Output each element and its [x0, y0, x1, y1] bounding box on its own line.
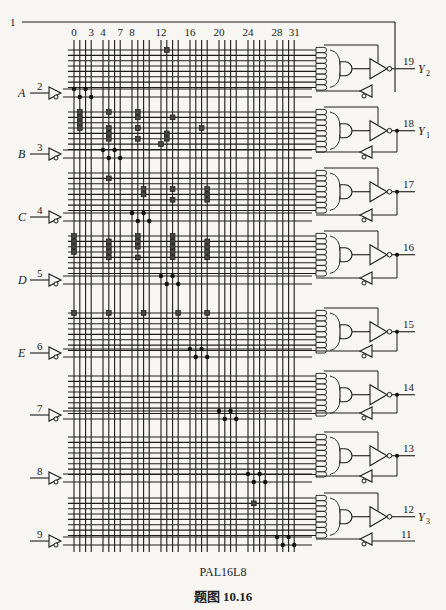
input-buffers: 2A3B4C5D6E7891 — [10, 16, 395, 547]
output-pin-number: 16 — [403, 241, 415, 253]
connection-dot — [118, 156, 122, 160]
and-gate-icon — [316, 373, 327, 378]
output-macrocells: 19Y218Y1171615141312Y311 — [316, 45, 430, 546]
fuse-mark — [205, 192, 210, 197]
and-gate-icon — [316, 249, 327, 254]
input-name: B — [18, 147, 26, 161]
fuse-mark — [170, 115, 175, 120]
fuse-mark — [106, 110, 111, 115]
and-gate-icon — [316, 181, 327, 186]
output-name: Y — [418, 510, 426, 524]
and-gate-icon — [316, 343, 327, 348]
column-label: 8 — [129, 26, 135, 38]
and-gate-icon — [316, 517, 327, 522]
fuse-mark — [135, 244, 140, 249]
fuse-mark — [176, 311, 181, 316]
column-label: 24 — [243, 26, 255, 38]
fuse-mark — [251, 501, 256, 506]
fuse-mark — [135, 110, 140, 115]
connection-dot — [292, 543, 296, 547]
and-gate-icon — [316, 233, 327, 238]
fuse-mark — [77, 115, 82, 120]
and-gate-icon — [316, 310, 327, 315]
output-macrocell-14: 14 — [316, 371, 415, 420]
input-pin-number: 7 — [37, 402, 43, 414]
and-gate-icon — [316, 533, 327, 538]
fuse-mark — [205, 197, 210, 202]
column-label: 12 — [156, 26, 167, 38]
fuse-mark — [159, 142, 164, 147]
device-name: PAL16L8 — [0, 565, 446, 580]
and-gate-icon — [316, 321, 327, 326]
connection-dot — [188, 347, 192, 351]
fuse-mark — [135, 126, 140, 131]
and-gate-icon — [316, 47, 327, 52]
fuse-mark — [199, 126, 204, 131]
output-pin-number: 19 — [403, 55, 415, 67]
fuse-mark — [164, 131, 169, 136]
output-macrocell-13: 13 — [316, 432, 415, 483]
connection-dot — [159, 274, 163, 278]
fuse-mark — [141, 187, 146, 192]
and-gate-icon — [316, 266, 327, 271]
connection-dot — [223, 417, 227, 421]
fuse-mark — [170, 234, 175, 239]
output-macrocell-17: 17 — [316, 168, 415, 222]
or-gate-icon — [340, 388, 352, 402]
fuse-mark — [205, 239, 210, 244]
connection-dot — [136, 219, 140, 223]
svg-text:3: 3 — [426, 517, 430, 526]
output-macrocell-18: 18Y1 — [316, 107, 430, 159]
svg-text:1: 1 — [426, 131, 430, 140]
and-gate-icon — [316, 348, 327, 353]
and-gate-icon — [316, 192, 327, 197]
and-gate-icon — [316, 406, 327, 411]
connection-dot — [228, 409, 232, 413]
fuse-mark — [164, 48, 169, 53]
connection-dot — [101, 148, 105, 152]
connection-dot — [205, 355, 209, 359]
fuse-mark — [205, 250, 210, 255]
fuse-mark — [170, 197, 175, 202]
fuse-mark — [205, 255, 210, 260]
fuse-mark — [135, 115, 140, 120]
fuse-mark — [141, 311, 146, 316]
fuse-mark — [170, 187, 175, 192]
fuse-mark — [135, 239, 140, 244]
fuse-mark — [106, 255, 111, 260]
fuse-mark — [77, 126, 82, 131]
figure-caption: 题图 10.16 — [0, 586, 446, 605]
and-gate-icon — [316, 53, 327, 58]
and-gate-icon — [316, 142, 327, 147]
and-gate-icon — [316, 467, 327, 472]
connection-dot — [130, 211, 134, 215]
connection-dot — [176, 282, 180, 286]
output-pin-number: 12 — [403, 503, 414, 515]
or-gate-icon — [340, 325, 352, 339]
and-gate-icon — [316, 495, 327, 500]
fuse-mark — [106, 131, 111, 136]
and-gate-icon — [316, 528, 327, 533]
fuse-mark — [205, 244, 210, 249]
and-gate-icon — [316, 197, 327, 202]
fuse-mark — [170, 250, 175, 255]
and-gate-icon — [316, 400, 327, 405]
fuse-mark — [77, 110, 82, 115]
and-gate-icon — [316, 109, 327, 114]
and-gate-icon — [316, 74, 327, 79]
fuse-mark — [106, 244, 111, 249]
fuse-mark — [205, 311, 210, 316]
connection-dot — [141, 211, 145, 215]
and-gate-icon — [316, 208, 327, 213]
output-macrocell-12: 12Y3 — [316, 493, 430, 546]
connection-dot — [246, 472, 250, 476]
and-gate-icon — [316, 461, 327, 466]
and-gate-icon — [316, 186, 327, 191]
fuse-mark — [164, 136, 169, 141]
and-gate-icon — [316, 456, 327, 461]
or-gate-icon — [340, 62, 352, 76]
input-name: A — [17, 86, 26, 100]
and-gate-icon — [316, 337, 327, 342]
fuse-mark — [106, 311, 111, 316]
fuse-mark — [106, 250, 111, 255]
